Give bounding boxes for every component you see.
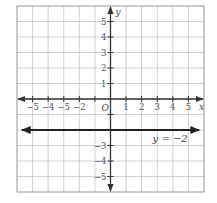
y-tick-label: 3: [101, 48, 106, 58]
y-tick-label: 4: [101, 32, 106, 42]
x-tick-label: −4: [42, 102, 55, 112]
coordinate-plane: −5−4−5−21234554321−3−4−5 x y O y = −2: [0, 0, 217, 203]
axes: [18, 7, 203, 191]
x-tick-label: −2: [73, 102, 86, 112]
y-tick-label: 2: [101, 63, 106, 73]
y-tick-label: −3: [94, 141, 107, 151]
x-axis-label: x: [199, 102, 204, 112]
equation-label: y = −2: [152, 133, 188, 144]
x-tick-label: 5: [186, 102, 191, 112]
origin-label: O: [102, 103, 110, 113]
y-tick-label: −5: [94, 172, 107, 182]
y-axis-label: y: [115, 7, 122, 17]
y-tick-label: −4: [94, 156, 107, 166]
y-tick-label: 5: [101, 17, 106, 27]
x-tick-label: 1: [123, 102, 128, 112]
x-tick-label: 2: [139, 102, 144, 112]
x-tick-label: 3: [155, 102, 160, 112]
x-tick-label: −5: [57, 102, 70, 112]
y-tick-label: 1: [101, 79, 106, 89]
x-tick-label: 4: [170, 102, 175, 112]
x-tick-label: −5: [26, 102, 39, 112]
